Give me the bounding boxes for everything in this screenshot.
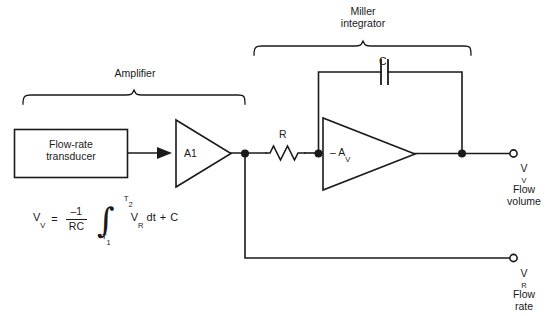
formula-integrand-main: V — [131, 211, 138, 223]
junction-dot-a1-output — [241, 150, 249, 158]
flow-volume-symbol-sub: V — [496, 177, 552, 186]
formula-lhs: VV — [33, 211, 45, 226]
integral-upper-limit: T2 — [124, 194, 133, 206]
transducer-label-line1: Flow-rate — [14, 138, 128, 150]
formula-differential: dt — [147, 211, 156, 223]
a1-label: A1 — [184, 147, 197, 159]
feedback-wire-right — [388, 72, 462, 153]
feedback-wire-left — [319, 72, 382, 153]
vv-output-terminal — [510, 150, 517, 157]
amplifier-brace — [23, 90, 245, 104]
formula-equals: = — [51, 213, 57, 225]
formula-integrand-sub: R — [138, 221, 143, 230]
integral-upper-limit-main: T — [124, 194, 129, 203]
opamp-gain-label: – AV — [330, 146, 350, 162]
flow-rate-terminal-label: VR Flow rate — [496, 267, 552, 312]
transducer-label-line2: transducer — [14, 150, 128, 162]
flow-volume-symbol-main: V — [496, 162, 552, 174]
flow-rate-symbol-sub: R — [496, 282, 552, 291]
flow-rate-line2: rate — [496, 300, 552, 312]
formula-fraction: –1 RC — [66, 206, 87, 231]
flow-rate-symbol: VR — [496, 267, 552, 288]
integrator-formula: VV = –1 RC ∫ T2 T1 VR dt+C — [33, 196, 178, 242]
formula-fraction-denominator: RC — [66, 219, 87, 232]
integral-limits: T2 T1 — [116, 196, 125, 242]
flow-volume-line2: volume — [496, 195, 552, 207]
amplifier-brace-label: Amplifier — [78, 67, 192, 79]
miller-brace-label-line1: Miller — [306, 5, 420, 17]
transducer-label: Flow-rate transducer — [14, 138, 128, 162]
formula-fraction-numerator: –1 — [68, 206, 86, 218]
integral-sign: ∫ — [97, 206, 115, 235]
vr-output-terminal — [510, 254, 517, 261]
opamp-gain-label-sub: V — [345, 155, 350, 164]
resistor-label: R — [279, 128, 287, 140]
formula-lhs-sub: V — [40, 221, 45, 230]
formula-constant: C — [170, 211, 178, 223]
diagram-canvas: Flow-rate transducer A1 R C – AV Amplifi… — [0, 0, 559, 316]
integral-lower-limit: T1 — [102, 232, 111, 244]
integral-lower-limit-main: T — [102, 232, 107, 241]
formula-plus: + — [160, 211, 166, 223]
formula-integral-group: ∫ T2 T1 — [97, 196, 125, 242]
integral-lower-limit-sub: 1 — [107, 238, 111, 247]
formula-integrand: VR dt+C — [131, 211, 178, 226]
junction-dot-opamp-input — [315, 150, 323, 158]
input-arrowhead — [157, 147, 172, 159]
junction-dot-opamp-output — [458, 150, 466, 158]
miller-brace-label: Miller integrator — [306, 5, 420, 29]
flow-volume-terminal-label: VV Flow volume — [496, 162, 552, 207]
integral-upper-limit-sub: 2 — [129, 200, 133, 209]
resistor-r — [266, 146, 305, 160]
miller-integrator-brace — [254, 41, 471, 55]
flow-rate-symbol-main: V — [496, 267, 552, 279]
opamp-gain-label-main: – A — [330, 146, 345, 158]
flow-volume-symbol: VV — [496, 162, 552, 183]
miller-brace-label-line2: integrator — [306, 17, 420, 29]
capacitor-label: C — [379, 55, 387, 67]
